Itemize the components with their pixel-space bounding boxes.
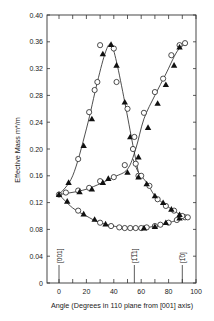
y-tick-label: 0.04 bbox=[29, 253, 43, 260]
y-tick-label: 0.40 bbox=[29, 12, 43, 19]
y-tick-label: 0 bbox=[39, 280, 43, 287]
open-circle-point bbox=[128, 225, 133, 230]
direction-label: [1̅0] bbox=[179, 252, 187, 263]
filled-triangle-point bbox=[135, 154, 141, 160]
filled-triangle-point bbox=[80, 142, 86, 148]
open-circle-point bbox=[63, 190, 68, 195]
x-tick-label: 40 bbox=[110, 288, 118, 295]
y-tick-label: 0.16 bbox=[29, 172, 43, 179]
filled-triangle-point bbox=[145, 124, 151, 130]
y-tick-label: 0.28 bbox=[29, 92, 43, 99]
x-tick-label: 60 bbox=[137, 288, 145, 295]
y-tick-label: 0.20 bbox=[29, 146, 43, 153]
filled-triangle-point bbox=[171, 62, 177, 68]
open-circle-point bbox=[133, 225, 138, 230]
open-circle-point bbox=[130, 146, 135, 151]
x-tick-label: 100 bbox=[190, 288, 202, 295]
open-circle-point bbox=[169, 53, 174, 58]
filled-triangle-point bbox=[160, 199, 166, 205]
fit-curve-d bbox=[133, 159, 185, 217]
open-circle-point bbox=[117, 225, 122, 230]
y-tick-label: 0.12 bbox=[29, 199, 43, 206]
open-circle-point bbox=[98, 220, 103, 225]
y-tick-label: 0.24 bbox=[29, 119, 43, 126]
open-circle-point bbox=[76, 208, 81, 213]
y-tick-label: 0.36 bbox=[29, 38, 43, 45]
open-circle-point bbox=[111, 175, 116, 180]
open-circle-point bbox=[76, 156, 81, 161]
open-circle-point bbox=[108, 223, 113, 228]
x-tick-label: 20 bbox=[83, 288, 91, 295]
open-circle-point bbox=[87, 110, 92, 115]
filled-triangle-point bbox=[108, 41, 114, 47]
open-circle-point bbox=[98, 43, 103, 48]
open-circle-point bbox=[185, 215, 190, 220]
y-tick-label: 0.08 bbox=[29, 226, 43, 233]
fitted-curves bbox=[59, 44, 185, 229]
open-circle-point bbox=[122, 162, 127, 167]
direction-annotations: [001][1̅1̅1][1̅0] bbox=[56, 248, 187, 283]
open-circle-point bbox=[152, 89, 157, 94]
open-circle-point bbox=[95, 79, 100, 84]
open-circle-point bbox=[158, 222, 163, 227]
direction-label: [1̅1̅1] bbox=[131, 248, 139, 263]
filled-triangle-point bbox=[113, 62, 119, 68]
fit-curve-b bbox=[59, 44, 185, 195]
filled-triangle-point bbox=[105, 175, 111, 181]
effective-mass-chart: 00.040.080.120.160.200.240.280.320.360.4… bbox=[0, 0, 214, 321]
open-circle-point bbox=[92, 87, 97, 92]
filled-triangle-point bbox=[163, 81, 169, 87]
filled-triangle-point bbox=[154, 100, 160, 106]
x-axis-title: Angle (Degrees in 110 plane from [001] a… bbox=[51, 301, 193, 310]
x-tick-label: 0 bbox=[57, 288, 61, 295]
filled-triangle-point bbox=[124, 169, 130, 175]
filled-triangle-point bbox=[152, 193, 158, 199]
filled-triangle-point bbox=[122, 99, 128, 105]
open-circle-point bbox=[141, 110, 146, 115]
direction-label: [001] bbox=[56, 248, 64, 263]
open-circle-point bbox=[125, 106, 130, 111]
open-circle-point bbox=[122, 225, 127, 230]
open-circle-point bbox=[133, 161, 138, 166]
data-points bbox=[56, 41, 191, 231]
y-tick-label: 0.32 bbox=[29, 65, 43, 72]
open-circle-point bbox=[161, 76, 166, 81]
open-circle-point bbox=[132, 134, 137, 139]
open-circle-point bbox=[114, 79, 119, 84]
open-circle-point bbox=[182, 41, 187, 46]
x-tick-label: 80 bbox=[165, 288, 173, 295]
y-axis-title: Effective Mass m*/m bbox=[13, 117, 22, 182]
